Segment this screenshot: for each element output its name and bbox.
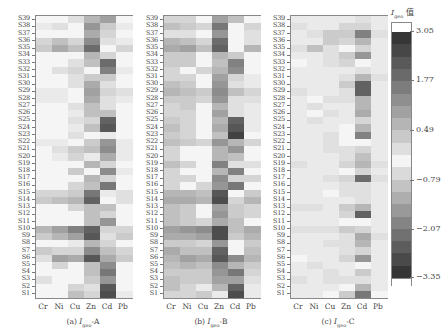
colorbar-tick-label: −2.07 [416, 224, 441, 233]
y-tick [32, 264, 35, 265]
colorbar-tick [410, 80, 414, 81]
y-tick [160, 91, 163, 92]
y-tick [32, 19, 35, 20]
heatmap-cell [355, 291, 372, 299]
y-tick [160, 48, 163, 49]
y-tick [287, 33, 290, 34]
y-tick [287, 214, 290, 215]
y-tick [160, 113, 163, 114]
y-tick [287, 207, 290, 208]
colorbar-segment [392, 44, 411, 57]
heatmap-cell [36, 291, 53, 299]
y-tick-label: S1 [10, 290, 30, 297]
colorbar-tick [410, 31, 414, 32]
heatmap-cell [212, 291, 229, 299]
y-tick [160, 98, 163, 99]
heatmap-cell [244, 291, 261, 299]
colorbar-segment [392, 253, 411, 266]
y-tick [287, 91, 290, 92]
colorbar-segment [392, 229, 411, 242]
colorbar-segment [392, 217, 411, 230]
y-tick [287, 257, 290, 258]
x-tick-label: Cu [67, 302, 83, 311]
y-tick [287, 163, 290, 164]
colorbar-segment [392, 32, 411, 45]
y-tick [160, 228, 163, 229]
y-tick [160, 127, 163, 128]
y-tick [287, 279, 290, 280]
y-tick [32, 163, 35, 164]
y-tick [287, 178, 290, 179]
y-tick [287, 55, 290, 56]
heatmap-cell [164, 291, 181, 299]
y-tick [32, 250, 35, 251]
y-tick [160, 26, 163, 27]
y-tick [160, 134, 163, 135]
x-tick-label: Pb [243, 302, 259, 311]
x-tick-label: Cu [195, 302, 211, 311]
colorbar-segment [392, 204, 411, 217]
colorbar-segment [392, 192, 411, 205]
y-tick [32, 279, 35, 280]
y-tick [287, 293, 290, 294]
y-tick [32, 185, 35, 186]
colorbar-tick [410, 277, 414, 278]
y-tick [160, 40, 163, 41]
y-tick [287, 149, 290, 150]
y-tick [160, 163, 163, 164]
y-tick [287, 134, 290, 135]
y-tick [32, 156, 35, 157]
heatmap-panel-c [290, 15, 388, 299]
y-tick [32, 84, 35, 85]
y-tick [287, 236, 290, 237]
colorbar-tick-label: 1.77 [416, 75, 434, 84]
x-tick-label: Cr [290, 302, 306, 311]
y-tick [32, 214, 35, 215]
y-tick [32, 178, 35, 179]
heatmap-cell [68, 291, 85, 299]
colorbar-segment [392, 94, 411, 107]
y-tick [32, 120, 35, 121]
x-tick-label: Pb [115, 302, 131, 311]
y-tick [160, 207, 163, 208]
y-tick [160, 293, 163, 294]
y-tick [32, 236, 35, 237]
y-tick [287, 142, 290, 143]
heatmap-cell [52, 291, 69, 299]
colorbar-overflow-bottom [392, 278, 411, 286]
y-tick [32, 142, 35, 143]
heatmap-panel-a [35, 15, 133, 299]
y-tick [32, 149, 35, 150]
colorbar-segment [392, 180, 411, 193]
y-tick [287, 250, 290, 251]
y-tick [160, 178, 163, 179]
y-tick [160, 214, 163, 215]
heatmap-cell [116, 291, 133, 299]
y-tick [287, 156, 290, 157]
x-tick-label: Zn [211, 302, 227, 311]
y-tick [32, 228, 35, 229]
y-tick [32, 26, 35, 27]
y-tick [160, 84, 163, 85]
y-tick [160, 149, 163, 150]
y-tick [160, 257, 163, 258]
heatmap-cell [84, 291, 101, 299]
x-tick-label: Cd [354, 302, 370, 311]
colorbar-segment [392, 106, 411, 119]
y-tick [32, 221, 35, 222]
y-tick [32, 207, 35, 208]
y-tick [32, 69, 35, 70]
y-tick [160, 185, 163, 186]
y-tick [32, 113, 35, 114]
y-tick [32, 91, 35, 92]
panel-caption: (b) Igeo-B [161, 317, 261, 328]
y-tick [32, 257, 35, 258]
y-tick [160, 272, 163, 273]
y-tick [287, 48, 290, 49]
y-tick [160, 142, 163, 143]
y-tick [32, 286, 35, 287]
colorbar-tick [410, 130, 414, 131]
colorbar-segment [392, 130, 411, 143]
x-tick-label: Ni [306, 302, 322, 311]
heatmap-cell [371, 291, 388, 299]
